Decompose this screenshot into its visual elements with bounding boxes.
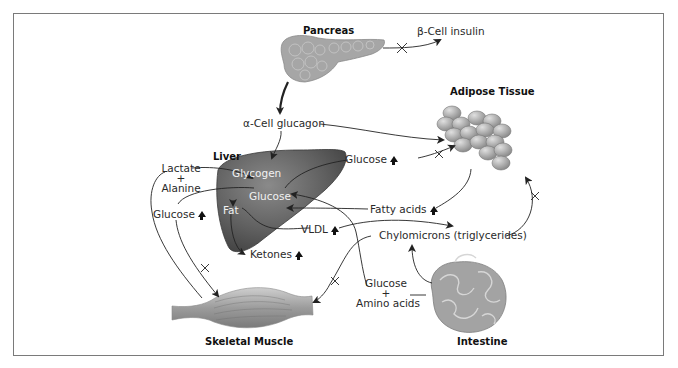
liver-glucose-label: Glucose — [249, 190, 291, 202]
glucose-increase-top: Glucose — [345, 153, 398, 165]
beta-cell-insulin-label: β-Cell insulin — [417, 25, 485, 37]
adipose-illustration — [437, 106, 512, 170]
adipose-tissue-label: Adipose Tissue — [450, 86, 535, 98]
up-arrow-icon — [295, 251, 303, 257]
liver-label: Liver — [213, 151, 241, 163]
vldl-increase: VLDL — [301, 223, 339, 235]
intestine-label: Intestine — [457, 336, 507, 348]
glucose-increase-left: Glucose — [153, 208, 206, 220]
up-arrow-icon — [430, 206, 438, 212]
ketones-increase: Ketones — [250, 248, 303, 260]
up-arrow-icon — [331, 226, 339, 232]
chylomicrons-label: Chylomicrons (triglycerides) — [379, 229, 527, 241]
pancreas-label: Pancreas — [303, 25, 354, 37]
alpha-cell-glucagon-label: α-Cell glucagon — [243, 117, 325, 129]
up-arrow-icon — [390, 156, 398, 162]
pancreas-illustration — [281, 36, 384, 82]
glucose-amino-acids-label: Glucose + Amino acids — [356, 277, 416, 309]
liver-fat-label: Fat — [223, 204, 239, 216]
intestine-illustration — [431, 255, 506, 333]
glucagon-arrow — [280, 82, 288, 113]
fatty-acids-increase: Fatty acids — [370, 203, 438, 215]
up-arrow-icon — [198, 211, 206, 217]
lactate-alanine-label: Lactate + Alanine — [157, 162, 205, 194]
skeletal-muscle-illustration — [172, 288, 313, 328]
skeletal-muscle-label: Skeletal Muscle — [205, 336, 293, 348]
insulin-arrow — [383, 40, 440, 48]
diagram-graphics — [0, 0, 678, 368]
liver-glycogen-label: Glycogen — [232, 167, 281, 179]
